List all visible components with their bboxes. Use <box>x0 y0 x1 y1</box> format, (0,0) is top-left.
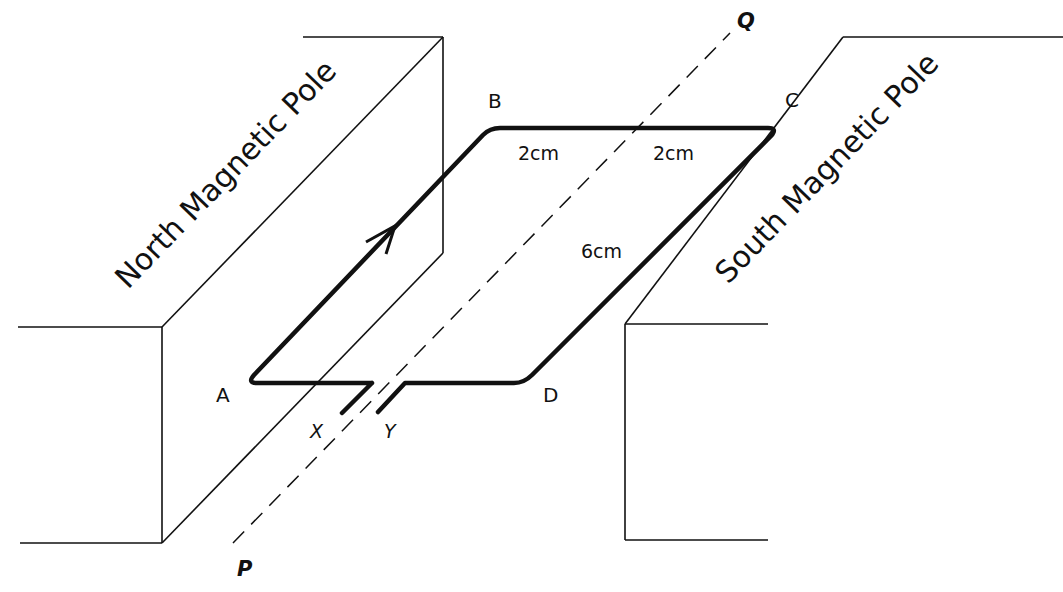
north-pole-block <box>18 37 443 543</box>
axis-label-q: Q <box>737 9 755 33</box>
dimension-label-bc-right: 2cm <box>653 142 694 164</box>
corner-label-d: D <box>543 383 558 407</box>
terminal-label-x: X <box>309 420 324 442</box>
corner-label-a: A <box>216 383 230 407</box>
south-pole-block <box>625 37 1063 540</box>
terminal-label-y: Y <box>384 420 397 442</box>
axis-label-p: P <box>237 557 253 581</box>
corner-label-b: B <box>488 89 502 113</box>
dimension-label-cd: 6cm <box>581 240 622 262</box>
dimension-label-bc-left: 2cm <box>518 142 559 164</box>
north-pole-label: North Magnetic Pole <box>108 53 343 295</box>
diagram-canvas: North Magnetic Pole South Magnetic Pole … <box>0 0 1063 592</box>
corner-label-c: C <box>785 88 799 112</box>
